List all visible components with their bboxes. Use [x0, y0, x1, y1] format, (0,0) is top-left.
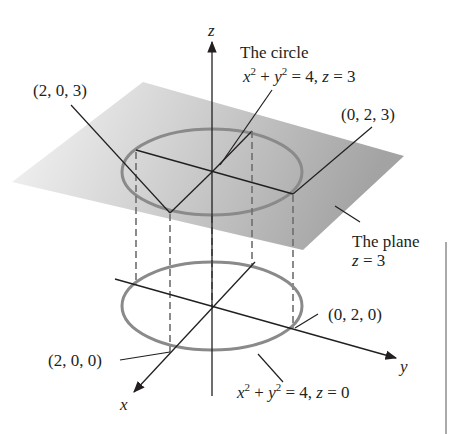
eq-op: = 4,: [287, 67, 322, 86]
eq-var: y: [272, 67, 282, 86]
eq-op: +: [250, 383, 268, 402]
point-2-0-0-leader: [120, 352, 170, 360]
circle-lower-leader: [258, 354, 283, 382]
z-axis-label: z: [207, 21, 215, 40]
cylinder-plane-diagram: z y x The circle x2 + y2 = 4, z = 3 (2, …: [0, 0, 458, 434]
eq-op: = 3: [359, 251, 386, 270]
circle-upper-equation: x2 + y2 = 4, z = 3: [242, 65, 356, 86]
eq-op: = 3: [329, 67, 356, 86]
plane-title-label: The plane: [352, 232, 420, 251]
plane-equation-label: z = 3: [351, 251, 385, 270]
eq-op: = 4,: [281, 383, 316, 402]
point-2-0-0-label: (2, 0, 0): [48, 351, 102, 370]
eq-op: +: [256, 67, 274, 86]
circle-lower-equation: x2 + y2 = 4, z = 0: [236, 381, 350, 402]
point-0-2-0-label: (0, 2, 0): [328, 305, 382, 324]
eq-op: = 0: [323, 383, 350, 402]
x-axis-label: x: [119, 395, 128, 414]
eq-var: y: [266, 383, 276, 402]
x-axis: [134, 262, 255, 392]
point-0-2-3-label: (0, 2, 3): [341, 105, 395, 124]
y-axis-label: y: [398, 357, 408, 376]
circle-title-label: The circle: [240, 43, 308, 62]
point-2-0-3-label: (2, 0, 3): [33, 81, 87, 100]
